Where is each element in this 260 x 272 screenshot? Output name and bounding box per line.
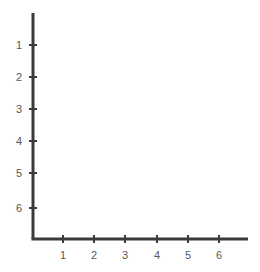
coordinate-axes-plot: 123456 123456 [0, 0, 260, 272]
y-axis-tick-label: 1 [16, 39, 22, 51]
x-axis-tick-label: 4 [154, 249, 160, 261]
x-axis-tick-label: 1 [60, 249, 66, 261]
y-axis-tick-label: 6 [16, 202, 22, 214]
y-axis-tick-label: 2 [16, 71, 22, 83]
x-axis-tick-label: 5 [185, 249, 191, 261]
y-axis-tick-label: 4 [16, 135, 22, 147]
chart-canvas: 123456 123456 [0, 0, 260, 272]
x-axis-tick-label: 6 [216, 249, 222, 261]
plot-background [0, 0, 260, 272]
x-axis-tick-label: 2 [91, 249, 97, 261]
y-axis-tick-label: 3 [16, 103, 22, 115]
x-axis-tick-label: 3 [122, 249, 128, 261]
y-axis-tick-label: 5 [16, 167, 22, 179]
